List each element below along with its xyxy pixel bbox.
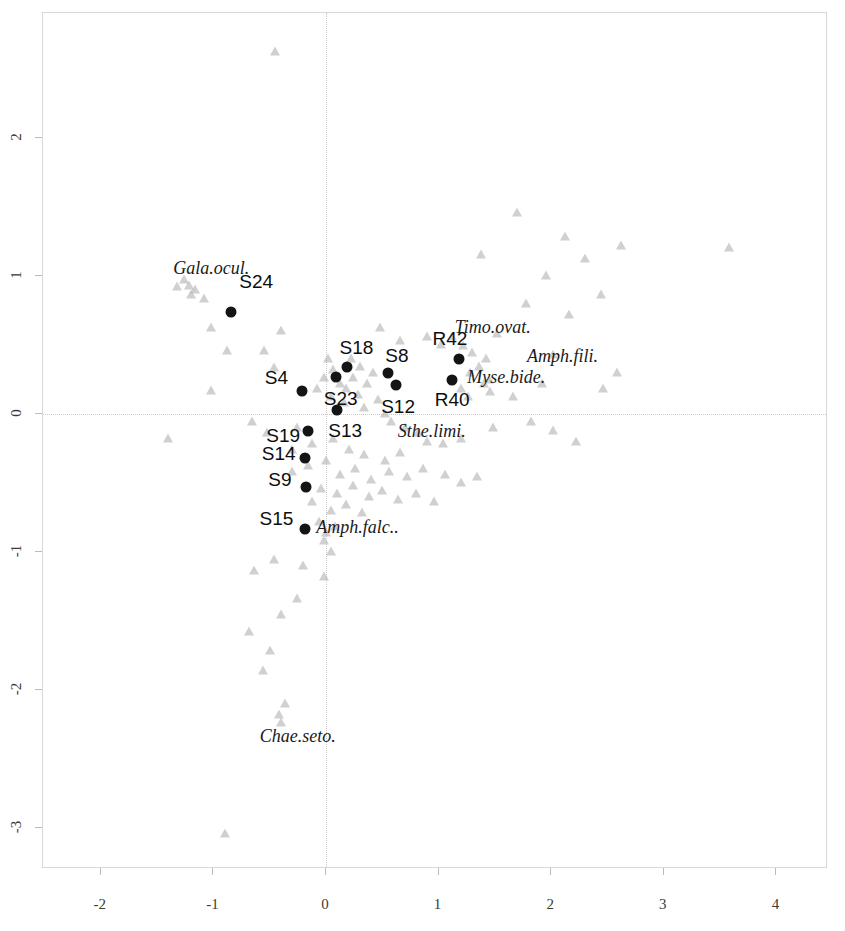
species-point [571,436,581,445]
species-point [307,497,317,506]
species-point [258,665,268,674]
x-tick-mark [550,868,551,875]
species-point [366,475,376,484]
species-point [488,422,498,431]
species-point [332,489,342,498]
species-point [350,464,360,473]
y-tick-mark [35,137,42,138]
species-point [368,367,378,376]
species-point [422,331,432,340]
y-tick-label: 1 [8,263,25,287]
species-point [335,469,345,478]
site-label: S9 [268,469,291,491]
species-point [222,345,232,354]
species-point [298,560,308,569]
species-point [598,384,608,393]
site-label: S18 [339,337,373,359]
species-point [184,280,194,289]
species-point [393,494,403,503]
species-point [456,478,466,487]
site-point [332,404,343,415]
species-point [259,345,269,354]
site-label: S12 [381,396,415,418]
species-point [292,594,302,603]
species-point [244,627,254,636]
site-point [390,380,401,391]
species-point [395,335,405,344]
species-point [319,373,329,382]
site-point [342,362,353,373]
x-tick-mark [775,868,776,875]
y-tick-label: -1 [8,539,25,563]
x-tick-label: 2 [546,896,554,913]
species-point [380,456,390,465]
species-point [307,439,317,448]
species-point [355,362,365,371]
x-tick-mark [663,868,664,875]
species-point [172,282,182,291]
site-label: S13 [328,420,362,442]
species-point [206,323,216,332]
species-point [348,373,358,382]
site-point [447,374,458,385]
x-tick-label: -2 [94,896,107,913]
species-point [724,243,734,252]
species-point [384,467,394,476]
site-point [302,425,313,436]
site-label: S15 [260,508,294,530]
species-point [359,403,369,412]
site-label: R40 [435,389,470,411]
species-point [316,483,326,492]
species-point [312,384,322,393]
species-point [440,469,450,478]
species-point [560,232,570,241]
zero-line-horizontal [43,414,826,415]
species-point [280,698,290,707]
species-point [616,240,626,249]
x-tick-label: 3 [659,896,667,913]
y-tick-mark [35,551,42,552]
site-point [300,482,311,493]
species-point [274,709,284,718]
x-tick-mark [100,868,101,875]
y-tick-mark [35,413,42,414]
species-point [344,444,354,453]
species-point [163,433,173,442]
site-point [299,523,310,534]
species-point [276,326,286,335]
y-tick-label: 0 [8,401,25,425]
species-point [548,425,558,434]
species-point [472,472,482,481]
species-point [341,500,351,509]
species-point [418,464,428,473]
species-point [526,417,536,426]
species-point [206,385,216,394]
species-point [270,47,280,56]
species-point [362,378,372,387]
species-label: Sthe.limi. [398,420,466,441]
species-label: Amph.falc.. [316,517,399,538]
species-label: Amph.fili. [527,346,598,367]
species-point [512,207,522,216]
species-point [357,508,367,517]
species-point [364,491,374,500]
x-tick-mark [325,868,326,875]
species-point [485,387,495,396]
site-label: S4 [265,367,288,389]
species-point [521,298,531,307]
y-tick-label: -2 [8,677,25,701]
y-tick-label: 2 [8,125,25,149]
species-point [276,610,286,619]
species-point [269,555,279,564]
y-tick-mark [35,689,42,690]
site-label: S8 [385,345,408,367]
x-tick-label: -1 [206,896,219,913]
species-point [596,290,606,299]
species-point [375,323,385,332]
site-point [382,367,393,378]
species-point [220,828,230,837]
x-tick-label: 1 [434,896,442,913]
site-point [297,385,308,396]
site-label: S14 [262,443,296,465]
species-point [249,566,259,575]
